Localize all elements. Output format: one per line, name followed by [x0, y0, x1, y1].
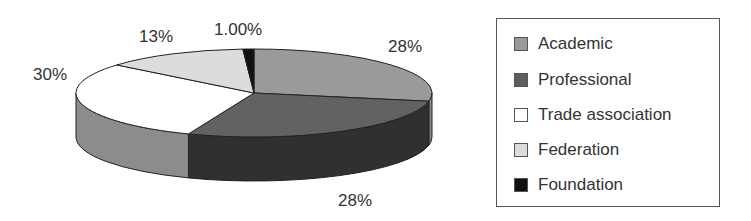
legend-item-professional: Professional — [514, 70, 632, 90]
legend-swatch-federation — [514, 143, 528, 157]
legend-label: Trade association — [538, 105, 672, 125]
legend-item-foundation: Foundation — [514, 175, 623, 195]
legend-swatch-academic — [514, 37, 528, 51]
chart-legend: Academic Professional Trade association … — [496, 18, 720, 207]
legend-swatch-foundation — [514, 178, 528, 192]
legend-item-trade-association: Trade association — [514, 105, 672, 125]
legend-label: Academic — [538, 34, 613, 54]
legend-label: Foundation — [538, 175, 623, 195]
slice-label-professional: 28% — [338, 191, 372, 211]
legend-label: Professional — [538, 70, 632, 90]
legend-label: Federation — [538, 140, 619, 160]
legend-swatch-trade-association — [514, 108, 528, 122]
legend-item-federation: Federation — [514, 140, 619, 160]
slice-label-trade: 30% — [33, 65, 67, 85]
legend-item-academic: Academic — [514, 34, 613, 54]
slice-label-academic: 28% — [388, 37, 422, 57]
legend-swatch-professional — [514, 73, 528, 87]
slice-label-foundation: 1.00% — [214, 20, 262, 40]
slice-label-federation: 13% — [139, 27, 173, 47]
